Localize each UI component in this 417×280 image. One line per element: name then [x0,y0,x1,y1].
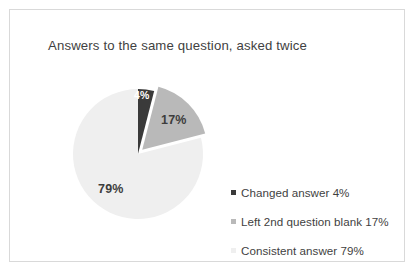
pie-chart: 4% 17% 79% [65,81,211,227]
legend-swatch-icon-consistent-answer [231,248,236,253]
pie-svg [65,81,211,227]
legend-label-left-blank: Left 2nd question blank 17% [241,215,389,228]
slice-value-label-left-blank: 17% [161,113,187,127]
chart-frame: Answers to the same question, asked twic… [9,9,405,262]
legend-item-left-blank[interactable]: Left 2nd question blank 17% [231,209,406,234]
legend-item-consistent-answer[interactable]: Consistent answer 79% [231,238,406,263]
legend-item-changed-answer[interactable]: Changed answer 4% [231,180,406,205]
legend-label-consistent-answer: Consistent answer 79% [241,244,364,257]
slice-value-label-changed-answer: 4% [134,89,150,101]
slice-value-label-consistent-answer: 79% [98,182,124,196]
legend-label-changed-answer: Changed answer 4% [241,186,349,199]
legend-swatch-icon-changed-answer [231,190,236,195]
pie-chart-screenshot: Answers to the same question, asked twic… [0,0,417,280]
chart-title: Answers to the same question, asked twic… [48,38,307,53]
chart-legend: Changed answer 4% Left 2nd question blan… [231,180,406,267]
legend-swatch-icon-left-blank [231,219,236,224]
